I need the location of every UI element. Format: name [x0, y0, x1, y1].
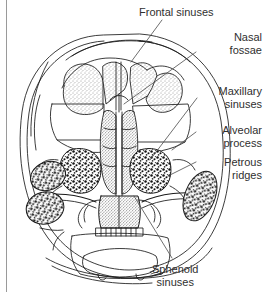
leader-sphenoid-sinuses — [134, 196, 172, 258]
label-petrous-ridges-line2: ridges — [224, 169, 262, 182]
alveolar-process-region — [40, 228, 170, 280]
label-maxillary-sinuses: Maxillary sinuses — [219, 85, 262, 110]
label-petrous-ridges: Petrous ridges — [224, 156, 262, 181]
label-maxillary-sinuses-line1: Maxillary — [219, 85, 262, 98]
sphenoid-sinus-region — [78, 196, 160, 228]
label-alveolar-process-line1: Alveolar — [222, 124, 262, 137]
sinus-anatomy-figure: Frontal sinuses Nasal fossae Maxillary s… — [0, 0, 266, 292]
label-sphenoid-sinuses-line1: Sphenoid — [152, 263, 199, 276]
frontal-sinus-region — [62, 40, 190, 114]
leader-petrous-ridges — [168, 162, 196, 176]
label-nasal-fossae: Nasal fossae — [230, 31, 262, 56]
label-sphenoid-sinuses: Sphenoid sinuses — [152, 263, 199, 288]
label-petrous-ridges-line1: Petrous — [224, 156, 262, 169]
label-nasal-fossae-line2: fossae — [230, 44, 262, 57]
label-alveolar-process-line2: process — [222, 137, 262, 150]
label-sphenoid-sinuses-line2: sinuses — [152, 276, 199, 289]
leader-alveolar-process — [172, 132, 196, 150]
label-alveolar-process: Alveolar process — [222, 124, 262, 149]
label-frontal-sinuses: Frontal sinuses — [139, 6, 214, 19]
label-frontal-sinuses-line1: Frontal sinuses — [139, 6, 214, 18]
label-nasal-fossae-line1: Nasal — [230, 31, 262, 44]
label-maxillary-sinuses-line2: sinuses — [219, 98, 262, 111]
